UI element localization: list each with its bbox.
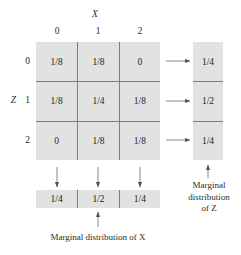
marginal-x-caption-var: X	[139, 232, 146, 242]
marginal-x-cell: 1/4	[119, 190, 160, 208]
joint-cell: 0	[119, 42, 160, 81]
row-header-1: 1	[16, 96, 30, 106]
marginal-x-cell: 1/2	[77, 190, 118, 208]
joint-cell: 1/8	[119, 81, 160, 120]
row-header-0: 0	[16, 57, 30, 67]
joint-cell: 1/8	[77, 121, 118, 160]
marginal-z-caption: Marginal distribution of Z	[178, 180, 240, 215]
joint-cell: 0	[36, 121, 77, 160]
marginal-z-cell: 1/4	[193, 42, 223, 81]
joint-cell: 1/8	[119, 121, 160, 160]
marginal-x-row: 1/4 1/2 1/4	[36, 190, 160, 208]
marginal-z-caption-line3-wrap: of Z	[178, 203, 240, 215]
column-header-0: 0	[36, 27, 78, 37]
marginal-z-caption-line3: of	[201, 203, 211, 213]
joint-cell: 1/4	[77, 81, 118, 120]
column-header-2: 2	[119, 27, 161, 37]
marginal-z-cell: 1/2	[193, 81, 223, 120]
joint-cell: 1/8	[36, 81, 77, 120]
z-axis-title: Z	[2, 96, 16, 106]
joint-cell: 1/8	[77, 42, 118, 81]
marginal-z-caption-line1: Marginal	[178, 180, 240, 192]
marginal-x-caption: Marginal distribution of X	[18, 233, 178, 242]
marginal-z-caption-var: Z	[211, 203, 217, 213]
marginal-z-caption-line2: distribution	[178, 192, 240, 204]
x-axis-title-text: X	[92, 10, 98, 20]
joint-distribution-figure: X 0 1 2 Z 0 1 2 1/8 1/8 0 1/8 1/4 1/8 0 …	[0, 0, 241, 255]
marginal-x-cell: 1/4	[36, 190, 77, 208]
marginal-z-column: 1/4 1/2 1/4	[193, 42, 223, 160]
row-header-2: 2	[16, 136, 30, 146]
marginal-z-cell: 1/4	[193, 121, 223, 160]
column-header-1: 1	[77, 27, 119, 37]
joint-probability-grid: 1/8 1/8 0 1/8 1/4 1/8 0 1/8 1/8	[36, 42, 160, 160]
marginal-x-caption-text: Marginal distribution of	[50, 232, 139, 242]
joint-cell: 1/8	[36, 42, 77, 81]
